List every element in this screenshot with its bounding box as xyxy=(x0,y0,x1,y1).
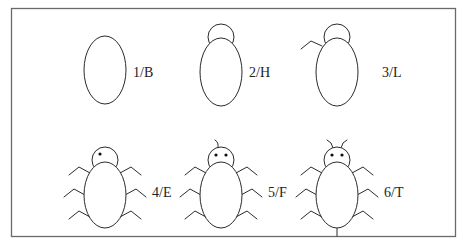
body-ellipse xyxy=(200,38,242,106)
body-ellipse xyxy=(84,36,126,104)
beetle-drawing-figure: 1/B 2/H 3/L 4/E xyxy=(0,0,464,241)
stage-6-beetle: 6/T xyxy=(296,140,404,236)
body-ellipse xyxy=(316,38,358,106)
antenna-left-line xyxy=(327,140,333,148)
stage-1-label: 1/B xyxy=(133,65,153,80)
eye-dot xyxy=(224,153,227,156)
stage-5-label: 5/F xyxy=(268,185,287,200)
leg-line xyxy=(301,41,322,49)
body-ellipse xyxy=(200,162,242,228)
stage-3-beetle: 3/L xyxy=(301,24,401,106)
stage-6-label: 6/T xyxy=(384,185,404,200)
body-ellipse xyxy=(316,162,358,228)
antenna-line xyxy=(215,140,218,148)
eye-dot xyxy=(214,153,217,156)
stage-1-beetle: 1/B xyxy=(84,36,153,104)
stage-3-label: 3/L xyxy=(382,65,401,80)
eye-dot xyxy=(98,152,101,155)
stage-5-beetle: 5/F xyxy=(180,140,287,228)
body-ellipse xyxy=(84,162,126,228)
eye-dot xyxy=(330,153,333,156)
stage-4-label: 4/E xyxy=(152,185,171,200)
stage-4-beetle: 4/E xyxy=(64,147,171,228)
stage-2-label: 2/H xyxy=(249,65,270,80)
eye-dot xyxy=(340,153,343,156)
antenna-right-line xyxy=(341,140,347,148)
stage-2-beetle: 2/H xyxy=(200,24,270,106)
